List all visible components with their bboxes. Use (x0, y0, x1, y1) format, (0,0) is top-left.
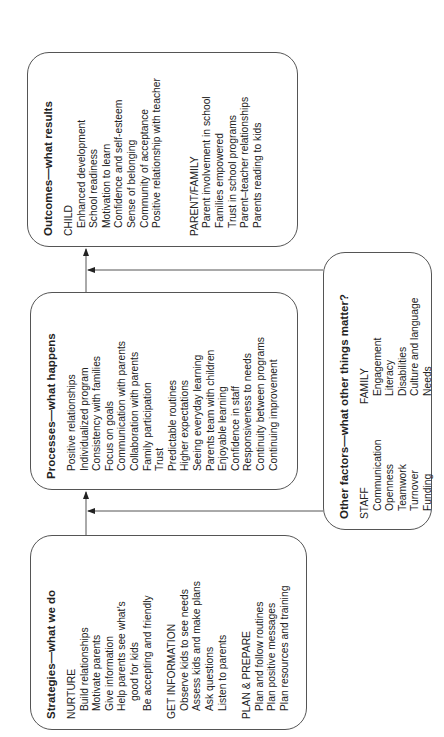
list-item: Plan resources and training (279, 546, 292, 719)
list-item: Openness (384, 424, 397, 519)
list-item: Disabilities (397, 298, 410, 404)
list-item: Parent involvement in school (201, 63, 214, 236)
strategies-plan-prepare-group: PLAN & PREPARE Plan and follow routines … (241, 546, 291, 719)
other-factors-box: Other factors—what other things matter? … (323, 252, 432, 530)
group-heading: CHILD (63, 63, 76, 236)
list-item: Family participation (142, 303, 155, 479)
list-item: good for kids (129, 546, 142, 719)
list-item: Sense of belonging (126, 63, 139, 236)
outcomes-family-group: PARENT/FAMILY Parent involvement in scho… (189, 63, 265, 236)
list-item: Engagement (372, 298, 385, 404)
list-item: Parent–teacher relationships (239, 63, 252, 236)
group-heading: STAFF (359, 424, 372, 519)
list-item: Observe kids to see needs (179, 546, 192, 719)
list-item: Give information (104, 546, 117, 719)
outcomes-child-group: CHILD Enhanced development School readin… (63, 63, 164, 236)
list-item: Continuing improvement (268, 303, 281, 479)
list-item: Listen to parents (217, 546, 230, 719)
other-factors-staff-group: STAFF Communication Openness Teamwork Tu… (359, 424, 435, 519)
list-item: Plan positive messages (266, 546, 279, 719)
list-item: Higher expectations (179, 303, 192, 479)
strategies-get-information-group: GET INFORMATION Observe kids to see need… (166, 546, 229, 719)
list-item: Continuity between programs (255, 303, 268, 479)
processes-box: Processes—what happens Positive relation… (30, 292, 298, 490)
list-item: Funding (422, 424, 435, 519)
processes-list: Positive relationships Individualized pr… (66, 303, 280, 479)
list-item: Collaboration with parents (129, 303, 142, 479)
list-item: Needs (422, 298, 435, 404)
group-heading: PARENT/FAMILY (189, 63, 202, 236)
list-item: Families empowered (214, 63, 227, 236)
outcomes-box: Outcomes—what results CHILD Enhanced dev… (27, 52, 298, 247)
list-item: Parents reading to kids (252, 63, 265, 236)
list-item: Enhanced development (76, 63, 89, 236)
list-item: Communication with parents (116, 303, 129, 479)
list-item: Confidence in staff (230, 303, 243, 479)
list-item: Positive relationships (66, 303, 79, 479)
processes-title: Processes—what happens (45, 303, 57, 479)
strategies-title: Strategies—what we do (45, 546, 57, 719)
group-heading: GET INFORMATION (166, 546, 179, 719)
list-item: Be accepting and friendly (142, 546, 155, 719)
list-item: Communication (372, 424, 385, 519)
other-factors-family-group: FAMILY Engagement Literacy Disabilities … (359, 298, 435, 404)
list-item: Community of acceptance (139, 63, 152, 236)
group-heading: PLAN & PREPARE (241, 546, 254, 719)
list-item: Help parents see what’s (116, 546, 129, 719)
list-item: Teamwork (397, 424, 410, 519)
group-heading: FAMILY (359, 298, 372, 404)
list-item: Ask questions (204, 546, 217, 719)
list-item: Parents team with children (205, 303, 218, 479)
list-item: Turnover (409, 424, 422, 519)
list-item: Culture and language (409, 298, 422, 404)
list-item: Motivate parents (91, 546, 104, 719)
strategies-nurture-group: NURTURE Build relationships Motivate par… (66, 546, 154, 719)
outcomes-title: Outcomes—what results (42, 63, 54, 236)
list-item: Enjoyable learning (217, 303, 230, 479)
list-item: Seeing everyday learning (192, 303, 205, 479)
list-item: Consistency with families (91, 303, 104, 479)
list-item: School readiness (88, 63, 101, 236)
list-item: Literacy (384, 298, 397, 404)
list-item: Responsiveness to needs (242, 303, 255, 479)
list-item: Plan and follow routines (254, 546, 267, 719)
list-item: Individualized program (79, 303, 92, 479)
list-item: Trust in school programs (227, 63, 240, 236)
list-item: Trust (154, 303, 167, 479)
group-heading: NURTURE (66, 546, 79, 719)
list-item: Motivation to learn (101, 63, 114, 236)
list-item: Build relationships (79, 546, 92, 719)
other-factors-title: Other factors—what other things matter? (338, 263, 350, 519)
list-item: Predictable routines (167, 303, 180, 479)
list-item: Positive relationship with teacher (151, 63, 164, 236)
strategies-box: Strategies—what we do NURTURE Build rela… (30, 535, 307, 730)
list-item: Confidence and self-esteem (113, 63, 126, 236)
list-item: Focus on goals (104, 303, 117, 479)
list-item: Assess kids and make plans (191, 546, 204, 719)
